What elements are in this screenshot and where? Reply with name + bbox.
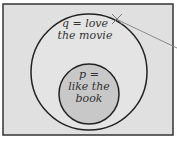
inner-label-line3: book: [76, 92, 103, 105]
venn-diagram: q = love the movie p = like the book: [0, 0, 177, 143]
outer-label-line2: the movie: [58, 29, 113, 42]
